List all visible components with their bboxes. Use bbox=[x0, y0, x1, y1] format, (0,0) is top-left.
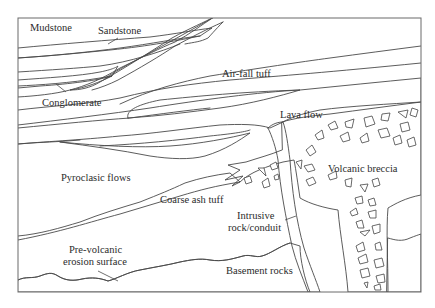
label-pyroclastic-flows: Pyroclasic flows bbox=[61, 172, 131, 183]
clast bbox=[410, 108, 418, 117]
clast bbox=[381, 113, 390, 121]
label-intrusive-1: Intrusive bbox=[237, 210, 275, 221]
clast bbox=[244, 176, 252, 184]
label-mudstone: Mudstone bbox=[30, 22, 72, 33]
clast bbox=[372, 178, 380, 187]
clast bbox=[360, 268, 370, 278]
label-air-fall-tuff: Air-fall tuff bbox=[222, 68, 271, 79]
label-sandstone: Sandstone bbox=[98, 25, 142, 36]
label-conglomerate: Conglomerate bbox=[42, 97, 102, 108]
label-volcanic-breccia: Volcanic breccia bbox=[328, 163, 398, 174]
label-intrusive-2: rock/conduit bbox=[228, 222, 281, 233]
clast bbox=[376, 274, 385, 283]
clast bbox=[345, 178, 352, 187]
label-pre-volcanic-2: erosion surface bbox=[63, 256, 127, 267]
label-coarse-ash-tuff: Coarse ash tuff bbox=[160, 194, 224, 205]
label-basement-rocks: Basement rocks bbox=[226, 265, 293, 276]
clast bbox=[400, 122, 410, 132]
label-lava-flow: Lava flow bbox=[280, 109, 323, 120]
clast bbox=[374, 258, 384, 268]
geologic-cross-section: Mudstone Sandstone Conglomerate Air-fall… bbox=[0, 0, 435, 308]
label-pre-volcanic-1: Pre-volcanic bbox=[69, 244, 122, 255]
